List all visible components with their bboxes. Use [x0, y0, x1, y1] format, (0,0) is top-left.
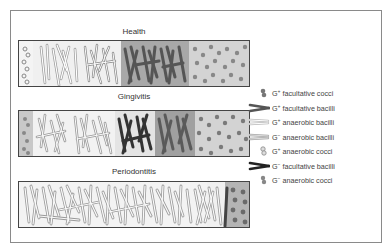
legend: G+ facultative cocci G+ facultative baci… [248, 86, 335, 188]
legend-item: G+ anaerobic cocci [248, 144, 335, 159]
legend-item: G+ facultative bacilli [248, 101, 335, 116]
legend-item: G+ anaerobic bacilli [248, 115, 335, 130]
coccus-gray-icon [248, 88, 270, 98]
bacillus-outline-gray-icon [248, 132, 270, 142]
bacillus-black-icon [248, 161, 270, 171]
bacillus-outline-light-icon [248, 117, 270, 127]
coccus-outline-icon [248, 146, 270, 156]
legend-item: G− facultative bacilli [248, 159, 335, 174]
legend-item: G− anaerobic bacilli [248, 130, 335, 145]
panel-strip-gingivitis [18, 110, 250, 157]
panel-strip-health [18, 40, 250, 87]
legend-item: G+ facultative cocci [248, 86, 335, 101]
coccus-dark-icon [248, 175, 270, 185]
legend-item: G− anaerobic cocci [248, 173, 335, 188]
panel-title-gingivitis: Gingivitis [18, 92, 250, 101]
panel-title-periodontitis: Periodontitis [18, 167, 250, 176]
panel-title-health: Health [18, 27, 250, 36]
bacillus-dark-icon [248, 103, 270, 113]
panel-strip-periodontitis [18, 181, 250, 228]
